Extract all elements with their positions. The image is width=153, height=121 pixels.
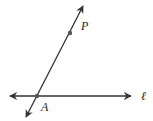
point-a	[35, 94, 39, 98]
point-p	[68, 31, 72, 35]
label-a: A	[40, 100, 49, 114]
geometry-diagram: P A ℓ	[0, 0, 153, 121]
label-p: P	[80, 19, 89, 33]
line-ap	[26, 6, 83, 117]
label-l: ℓ	[141, 89, 146, 103]
